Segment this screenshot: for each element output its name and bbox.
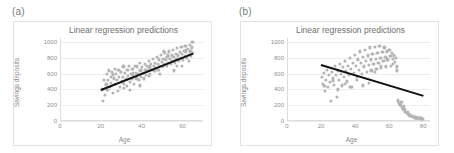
scatter-point (116, 89, 119, 92)
x-axis-tick-label: 80 (420, 123, 427, 129)
panel-a-chart-frame: Linear regression predictions Savings de… (13, 21, 212, 146)
scatter-point (355, 78, 358, 81)
scatter-point (105, 72, 108, 75)
scatter-point (331, 79, 334, 82)
panel-b-x-axis-label: Age (241, 136, 438, 143)
scatter-point (105, 82, 108, 85)
y-axis-tick-label: 1000 (271, 39, 284, 45)
scatter-point (394, 60, 397, 63)
y-axis-tick-label: 0 (54, 118, 57, 124)
x-axis-tick-label: 20 (98, 123, 105, 129)
x-axis-tick-label: 60 (179, 123, 186, 129)
scatter-point (191, 40, 194, 43)
scatter-point (329, 100, 332, 103)
scatter-point (176, 47, 179, 50)
scatter-point (172, 69, 175, 72)
scatter-point (383, 46, 386, 49)
gridline (60, 121, 203, 122)
scatter-point (349, 67, 352, 70)
gridline (287, 42, 430, 43)
scatter-point (188, 59, 191, 62)
scatter-point (101, 99, 104, 102)
scatter-point (180, 45, 183, 48)
scatter-point (136, 65, 139, 68)
scatter-point (367, 63, 370, 66)
gridline (287, 105, 430, 106)
scatter-point (159, 53, 162, 56)
panel-a: (a) Linear regression predictions Saving… (0, 0, 227, 153)
scatter-point (400, 100, 403, 103)
scatter-point (371, 52, 374, 55)
scatter-point (334, 74, 337, 77)
scatter-point (126, 68, 129, 71)
gridline (287, 121, 430, 122)
panel-b-y-axis-line (287, 38, 288, 121)
panel-b-plot-area: 02004006008001000020406080 (287, 38, 430, 121)
panel-a-chart-title: Linear regression predictions (14, 25, 211, 35)
y-axis-tick-label: 600 (274, 71, 284, 77)
panel-a-tag: (a) (12, 6, 25, 18)
gridline (60, 42, 203, 43)
x-axis-tick-label: 0 (285, 123, 288, 129)
panel-b-tag: (b) (239, 6, 252, 18)
scatter-point (354, 64, 357, 67)
scatter-point (333, 64, 336, 67)
panel-b-chart-frame: Linear regression predictions Savings de… (240, 21, 439, 146)
scatter-point (138, 62, 141, 65)
scatter-point (172, 48, 175, 51)
y-axis-tick-label: 200 (47, 102, 57, 108)
scatter-point (366, 54, 369, 57)
scatter-point (175, 64, 178, 67)
scatter-point (369, 58, 372, 61)
panel-a-y-axis-line (60, 38, 61, 121)
scatter-point (326, 85, 329, 88)
scatter-point (367, 81, 370, 84)
scatter-point (373, 45, 376, 48)
x-axis-tick-label: 40 (138, 123, 145, 129)
scatter-point (320, 75, 323, 78)
x-axis-tick-label: 0 (58, 123, 61, 129)
scatter-point (337, 78, 340, 81)
scatter-point (336, 88, 339, 91)
scatter-point (363, 48, 366, 51)
scatter-point (327, 74, 330, 77)
x-axis-tick-label: 40 (352, 123, 359, 129)
scatter-point (180, 64, 183, 67)
scatter-point (324, 89, 327, 92)
scatter-point (368, 46, 371, 49)
y-axis-tick-label: 1000 (44, 39, 57, 45)
scatter-point (151, 57, 154, 60)
scatter-point (125, 85, 128, 88)
scatter-point (372, 62, 375, 65)
scatter-point (343, 82, 346, 85)
scatter-point (113, 67, 116, 70)
scatter-point (129, 89, 132, 92)
figure-linear-regression-panels: (a) Linear regression predictions Saving… (0, 0, 454, 153)
scatter-point (341, 66, 344, 69)
panel-b-y-axis-label: Savings deposits (240, 45, 247, 119)
x-axis-tick-label: 60 (386, 123, 393, 129)
scatter-point (142, 77, 145, 80)
y-axis-tick-label: 400 (47, 86, 57, 92)
x-axis-tick-label: 20 (318, 123, 325, 129)
scatter-point (396, 65, 399, 68)
scatter-point (385, 65, 388, 68)
scatter-point (104, 93, 107, 96)
scatter-point (111, 91, 114, 94)
scatter-point (376, 51, 379, 54)
scatter-point (138, 84, 141, 87)
scatter-point (335, 96, 338, 99)
scatter-point (190, 46, 193, 49)
scatter-point (103, 78, 106, 81)
scatter-point (381, 51, 384, 54)
scatter-point (147, 74, 150, 77)
scatter-point (360, 72, 363, 75)
y-axis-tick-label: 200 (274, 102, 284, 108)
scatter-point (362, 65, 365, 68)
scatter-point (364, 59, 367, 62)
scatter-point (128, 81, 131, 84)
scatter-point (131, 67, 134, 70)
panel-a-plot-area: 020040060080010000204060 (60, 38, 203, 121)
scatter-point (395, 56, 398, 59)
y-axis-tick-label: 800 (274, 55, 284, 61)
